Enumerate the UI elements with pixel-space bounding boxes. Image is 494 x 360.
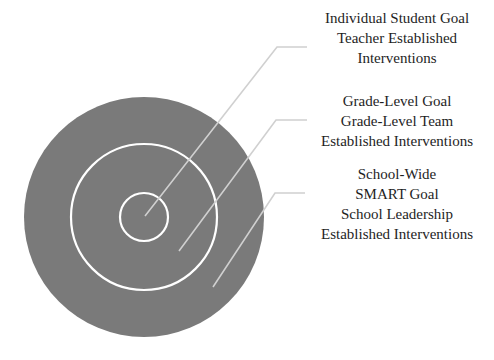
label-line: Teacher Established (310, 28, 484, 48)
label-line: School Leadership (310, 204, 484, 224)
label-line: Interventions (310, 48, 484, 68)
label-line: Grade-Level Goal (310, 91, 484, 111)
label-line: Grade-Level Team (310, 111, 484, 131)
label-line: Established Interventions (310, 131, 484, 151)
label-line: Established Interventions (310, 224, 484, 244)
label-school-wide-goal: School-Wide SMART Goal School Leadership… (310, 164, 484, 244)
label-line: School-Wide (310, 164, 484, 184)
school-wide-ring (24, 97, 264, 337)
label-grade-level-goal: Grade-Level Goal Grade-Level Team Establ… (310, 91, 484, 151)
label-line: SMART Goal (310, 184, 484, 204)
label-individual-goal: Individual Student Goal Teacher Establis… (310, 8, 484, 68)
label-line: Individual Student Goal (310, 8, 484, 28)
